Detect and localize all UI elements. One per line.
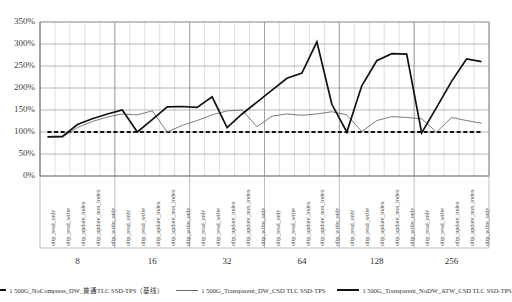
- x-axis-tick-label: oltp_write_only: [185, 208, 191, 246]
- x-axis-group-label: 16: [132, 256, 172, 266]
- x-axis-tick-label: oltp_read_only: [424, 210, 430, 246]
- legend-swatch-dashed-icon: [0, 289, 6, 291]
- legend-item[interactable]: 1 500G_NoCompress_DW_普通TLC SSD-TPS（基线）: [0, 285, 164, 295]
- x-axis-tick-label: oltp_read_write: [65, 208, 71, 246]
- x-axis-tick-label: oltp_read_only: [125, 210, 131, 246]
- x-axis-tick-label: oltp_read_write: [439, 208, 445, 246]
- x-axis-tick-label: oltp_update_non_index: [170, 189, 176, 246]
- x-axis-tick-label: oltp_update_index: [80, 201, 86, 246]
- x-axis-tick-label: oltp_read_write: [364, 208, 370, 246]
- x-axis-tick-label: oltp_update_non_index: [319, 189, 325, 246]
- y-axis-tick-label: 200%: [0, 82, 35, 92]
- x-axis-group-label: 128: [357, 256, 397, 266]
- y-axis-tick-label: 100%: [0, 126, 35, 136]
- x-axis-tick-label: oltp_read_write: [290, 208, 296, 246]
- x-axis-group-label: 8: [57, 256, 97, 266]
- legend-swatch-thin-icon: [176, 290, 198, 291]
- x-axis-tick-label: oltp_update_non_index: [394, 189, 400, 246]
- x-axis-tick-label: oltp_update_index: [230, 201, 236, 246]
- x-axis-tick-label: oltp_update_index: [379, 201, 385, 246]
- legend-swatch-thick-icon: [337, 289, 359, 291]
- x-axis-tick-label: oltp_update_non_index: [469, 189, 475, 246]
- x-axis-tick-label: oltp_update_non_index: [245, 189, 251, 246]
- x-axis-tick-label: oltp_update_index: [305, 201, 311, 246]
- x-axis-tick-label: oltp_write_only: [484, 208, 490, 246]
- x-axis-tick-label: oltp_read_only: [50, 210, 56, 246]
- y-axis-tick-label: 50%: [0, 148, 35, 158]
- x-axis-tick-label: oltp_read_write: [215, 208, 221, 246]
- x-axis-tick-label: oltp_read_only: [200, 210, 206, 246]
- legend-item[interactable]: 1 500G_Transparent_NoDW_ATW_CSD TLC SSD-…: [337, 287, 511, 294]
- x-axis-tick-label: oltp_read_write: [140, 208, 146, 246]
- x-axis-group-label: 64: [282, 256, 322, 266]
- y-axis-tick-label: 350%: [0, 16, 35, 26]
- chart-legend: 1 500G_NoCompress_DW_普通TLC SSD-TPS（基线）1 …: [0, 281, 496, 299]
- x-axis-group-label: 32: [207, 256, 247, 266]
- legend-item[interactable]: 1 500G_Transparent_DW_CSD TLC SSD-TPS: [176, 287, 325, 294]
- x-axis-tick-label: oltp_update_index: [155, 201, 161, 246]
- x-axis-tick-label: oltp_update_index: [454, 201, 460, 246]
- x-axis-tick-label: oltp_write_only: [110, 208, 116, 246]
- y-axis-tick-label: 150%: [0, 104, 35, 114]
- y-axis-tick-label: 0%: [0, 170, 35, 180]
- x-axis-tick-label: oltp_update_non_index: [95, 189, 101, 246]
- y-axis-tick-label: 250%: [0, 60, 35, 70]
- legend-label: 1 500G_Transparent_DW_CSD TLC SSD-TPS: [201, 287, 325, 294]
- legend-label: 1 500G_Transparent_NoDW_ATW_CSD TLC SSD-…: [362, 287, 511, 294]
- x-axis-group-label: 256: [432, 256, 472, 266]
- y-axis-tick-label: 300%: [0, 38, 35, 48]
- x-axis-tick-label: oltp_read_only: [349, 210, 355, 246]
- x-axis-tick-label: oltp_read_only: [275, 210, 281, 246]
- x-axis-tick-label: oltp_write_only: [409, 208, 415, 246]
- x-axis-tick-label: oltp_write_only: [334, 208, 340, 246]
- x-axis-tick-label: oltp_write_only: [260, 208, 266, 246]
- legend-label: 1 500G_NoCompress_DW_普通TLC SSD-TPS（基线）: [9, 285, 164, 295]
